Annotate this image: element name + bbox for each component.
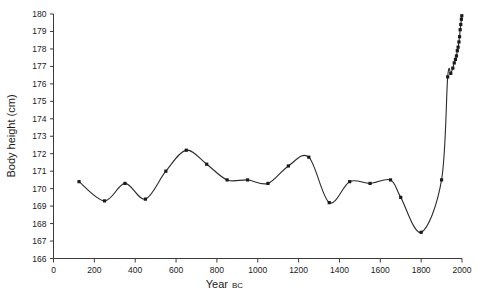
data-point [77,180,80,183]
y-axis-title: Body height (cm) [5,94,17,177]
x-tick-label: 200 [87,265,101,275]
x-tick-label: 400 [128,265,142,275]
x-tick-label: 2000 [453,265,472,275]
data-point-markers [77,14,463,234]
y-tick-label: 176 [32,79,46,89]
data-point [226,178,229,181]
y-tick-label: 168 [32,219,46,229]
y-tick-label: 179 [32,26,46,36]
body-height-line-chart: 1661671681691701711721731741751761771781… [0,0,477,299]
x-tick-label: 1800 [412,265,431,275]
data-point [454,58,457,61]
data-point [449,72,452,75]
x-tick-label: 800 [210,265,224,275]
y-tick-label: 172 [32,149,46,159]
data-point [185,149,188,152]
data-point [103,199,106,202]
data-point [348,180,351,183]
y-tick-label: 167 [32,236,46,246]
y-tick-label: 178 [32,44,46,54]
data-point [460,18,463,21]
y-tick-label: 173 [32,131,46,141]
data-point [420,231,423,234]
data-point [123,182,126,185]
data-point [457,46,460,49]
y-tick-label: 180 [32,9,46,19]
y-tick-label: 175 [32,96,46,106]
data-point [307,156,310,159]
x-axis-title: Year [206,278,229,290]
x-axis-title-era: BC [232,281,243,290]
data-series-line [79,16,462,233]
y-tick-label: 169 [32,201,46,211]
data-point [460,14,463,17]
data-point [246,178,249,181]
data-point [456,49,459,52]
x-tick-label: 0 [51,265,56,275]
data-point [451,67,454,70]
data-point [440,178,443,181]
data-point [455,54,458,57]
data-point [328,201,331,204]
data-point [144,198,147,201]
x-tick-label: 600 [169,265,183,275]
y-tick-label: 177 [32,61,46,71]
data-point [459,23,462,26]
y-tick-label: 171 [32,166,46,176]
y-tick-label: 166 [32,254,46,264]
data-point [205,163,208,166]
data-point [266,182,269,185]
data-point [399,196,402,199]
x-tick-label: 1200 [289,265,308,275]
axes [54,14,463,259]
data-point [457,40,460,43]
data-point [164,170,167,173]
data-point [368,182,371,185]
data-point [458,35,461,38]
data-point [453,61,456,64]
data-point [459,28,462,31]
data-point [389,178,392,181]
y-tick-label: 170 [32,184,46,194]
y-axis-ticks: 1661671681691701711721731741751761771781… [32,9,53,264]
data-point [287,164,290,167]
x-tick-label: 1400 [330,265,349,275]
chart-figure: 1661671681691701711721731741751761771781… [0,0,477,299]
x-axis-ticks: 0200400600800100012001400160018002000 [51,259,472,275]
x-tick-label: 1600 [371,265,390,275]
data-point [446,75,449,78]
y-tick-label: 174 [32,114,46,124]
x-tick-label: 1000 [248,265,267,275]
